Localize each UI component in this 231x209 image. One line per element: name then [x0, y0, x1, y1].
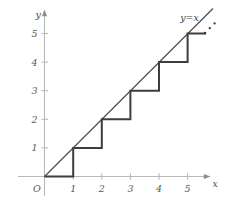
x-axis-arrow-icon: [204, 174, 211, 179]
y-tick-label-2: 2: [30, 114, 37, 125]
identity-line-label: y=x: [179, 12, 199, 23]
y-tick-label-3: 3: [31, 85, 37, 96]
y-axis-label: y: [35, 9, 42, 20]
origin-label: O: [33, 183, 41, 194]
y-tick-label-1: 1: [31, 142, 37, 153]
y-tick-label-5: 5: [31, 28, 37, 39]
y-tick-label-4: 4: [30, 57, 37, 68]
x-tick-label-2: 2: [98, 183, 105, 194]
x-tick-label-4: 4: [155, 183, 162, 194]
x-tick-label-3: 3: [127, 183, 133, 194]
continuation-dots-icon: [204, 22, 216, 34]
step-function-path: [45, 34, 207, 177]
plot-canvas: 1 2 3 4 5 1 2 3 4 5 O x y y=x: [0, 0, 231, 209]
x-tick-label-1: 1: [70, 183, 76, 194]
x-tick-label-5: 5: [185, 183, 191, 194]
x-axis-label: x: [213, 178, 219, 189]
y-axis-arrow-icon: [42, 10, 47, 17]
step-function-figure: 1 2 3 4 5 1 2 3 4 5 O x y y=x: [0, 0, 231, 209]
